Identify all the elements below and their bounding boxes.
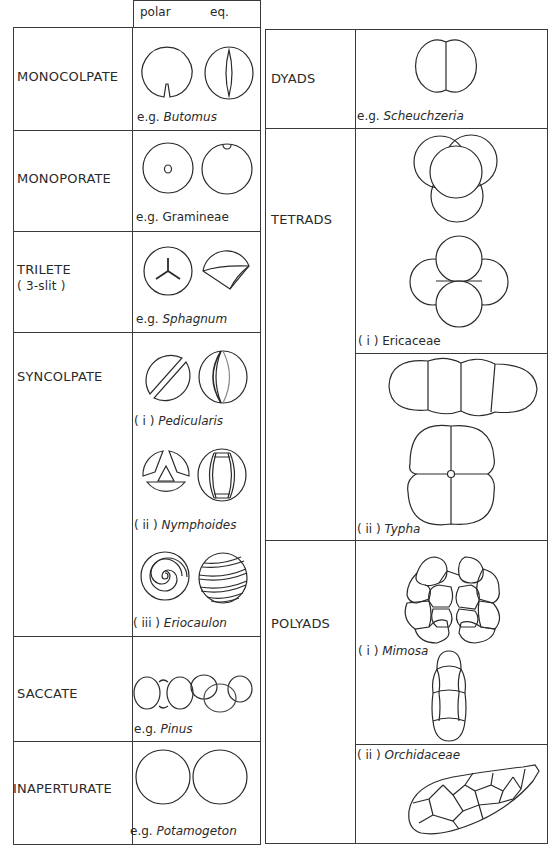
divider: [13, 844, 261, 845]
header-equatorial: eq.: [210, 5, 229, 19]
potamogeton-polar-drawing: [136, 750, 192, 806]
row-label-monocolpate: MONOCOLPATE: [17, 69, 118, 85]
divider: [547, 29, 548, 844]
header-polar: polar: [140, 5, 171, 19]
pinus-polar-drawing: [133, 676, 197, 716]
monocolpate-polar-drawing: [140, 44, 195, 104]
pedicularis-polar-drawing: [140, 350, 194, 404]
scheuchzeria-drawing: [403, 38, 493, 94]
example-pinus: e.g. Pinus: [134, 722, 193, 736]
row-sublabel-trilete: ( 3-slit ): [17, 278, 66, 294]
example-orchidaceae: ( ii ) Orchidaceae: [357, 748, 460, 762]
divider: [13, 27, 14, 845]
divider: [13, 741, 261, 742]
example-mimosa: ( i ) Mimosa: [358, 644, 428, 658]
example-butomus: e.g. Butomus: [137, 110, 217, 124]
row-label-inaperturate: INAPERTURATE: [13, 781, 112, 797]
trilete-equatorial-drawing: [200, 246, 252, 294]
mimosa-polyad-drawing: [403, 543, 505, 647]
example-sphagnum: e.g. Sphagnum: [136, 312, 227, 326]
example-ericaceae: ( i ) Ericaceae: [358, 334, 441, 348]
example-eriocaulon: ( iii ) Eriocaulon: [133, 616, 227, 630]
typha-square-tetrad-drawing: [404, 422, 498, 526]
monocolpate-equatorial-drawing: [204, 47, 256, 103]
nymphoides-polar-drawing: [139, 448, 193, 502]
row-label-tetrads: TETRADS: [271, 212, 332, 228]
divider: [13, 231, 261, 232]
divider: [355, 29, 356, 844]
row-label-saccate: SACCATE: [17, 686, 78, 702]
divider: [13, 332, 261, 333]
potamogeton-equatorial-drawing: [193, 750, 249, 806]
example-pedicularis: ( i ) Pedicularis: [134, 414, 223, 428]
example-potamogeton: e.g. Potamogeton: [130, 824, 237, 838]
trilete-polar-drawing: [143, 246, 195, 298]
example-scheuchzeria: e.g. Scheuchzeria: [357, 109, 464, 123]
divider: [355, 353, 548, 354]
row-label-dyads: DYADS: [271, 71, 315, 87]
example-gramineae: e.g. Gramineae: [136, 210, 229, 224]
divider: [265, 843, 548, 844]
typha-linear-tetrad-drawing: [385, 358, 545, 416]
divider: [133, 0, 261, 1]
divider: [132, 27, 133, 845]
divider: [13, 130, 261, 131]
ericaceae-tetrad-top-drawing: [413, 134, 505, 226]
example-typha: ( ii ) Typha: [357, 522, 420, 536]
eriocaulon-polar-drawing: [140, 551, 192, 603]
example-nymphoides: ( ii ) Nymphoides: [134, 518, 236, 532]
row-label-monoporate: MONOPORATE: [17, 171, 111, 187]
monoporate-polar-drawing: [143, 143, 195, 195]
mimosa-linear-polyad-drawing: [429, 649, 469, 742]
nymphoides-equatorial-drawing: [197, 448, 249, 502]
divider: [133, 0, 134, 27]
divider: [260, 27, 261, 845]
pinus-equatorial-drawing: [190, 672, 254, 716]
divider: [13, 636, 261, 637]
divider: [13, 27, 261, 28]
divider: [260, 0, 261, 27]
orchidaceae-polyad-drawing: [403, 763, 557, 843]
eriocaulon-equatorial-drawing: [198, 551, 250, 605]
divider: [265, 29, 266, 844]
divider: [265, 128, 548, 129]
ericaceae-tetrad-side-drawing: [409, 234, 509, 330]
divider: [265, 29, 548, 30]
row-label-polyads: POLYADS: [271, 616, 330, 632]
row-label-syncolpate: SYNCOLPATE: [17, 369, 103, 385]
monoporate-equatorial-drawing: [202, 144, 254, 196]
row-label-trilete: TRILETE: [17, 262, 71, 278]
divider: [355, 744, 548, 745]
pedicularis-equatorial-drawing: [198, 350, 250, 404]
divider: [265, 540, 548, 541]
